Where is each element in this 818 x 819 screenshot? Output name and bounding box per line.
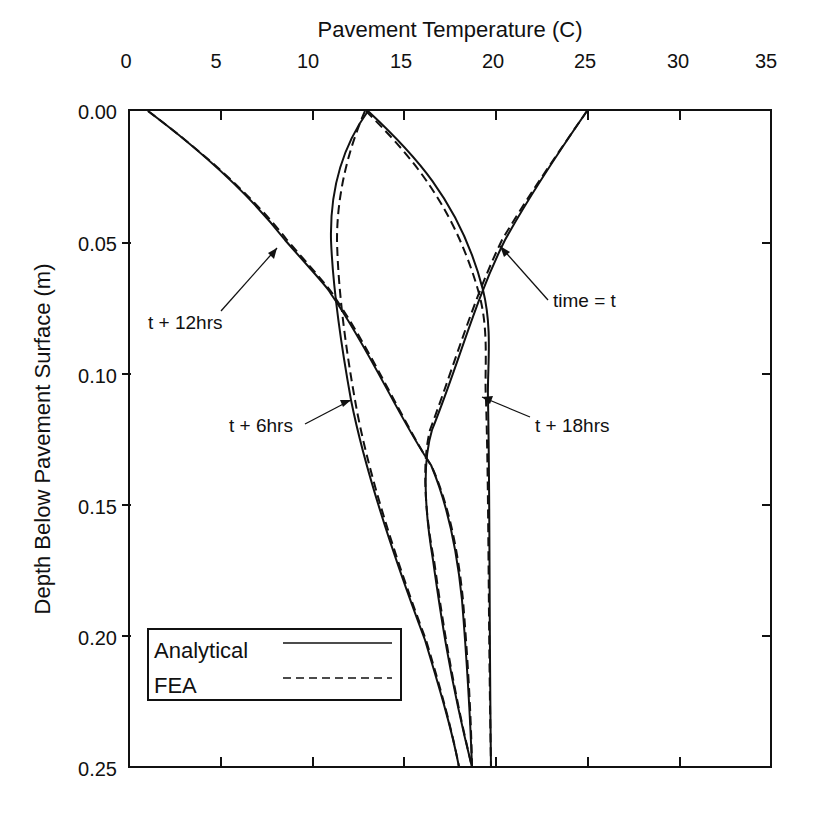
y-ticks xyxy=(122,243,771,636)
annotation-t12: t + 12hrs xyxy=(148,312,222,333)
y-tick-label: 0.15 xyxy=(78,496,117,518)
arrow-t12 xyxy=(221,248,277,311)
legend: Analytical FEA xyxy=(148,629,401,700)
arrowhead-icon xyxy=(340,400,351,407)
y-tick-label: 0.05 xyxy=(78,233,117,255)
x-tick-label: 20 xyxy=(482,50,504,72)
y-axis-title: Depth Below Pavement Surface (m) xyxy=(30,264,55,615)
x-tick-label: 25 xyxy=(574,50,596,72)
x-tick-labels: 0 5 10 15 20 25 30 35 xyxy=(120,50,777,72)
y-tick-label: 0.10 xyxy=(78,365,117,387)
annotation-time-t: time = t xyxy=(553,290,617,311)
x-tick-label: 35 xyxy=(755,50,777,72)
x-tick-label: 5 xyxy=(210,50,221,72)
chart-canvas: Pavement Temperature (C) Depth Below Pav… xyxy=(0,0,818,819)
legend-label-analytical: Analytical xyxy=(154,638,248,663)
annotation-t18: t + 18hrs xyxy=(535,415,609,436)
annotation-arrows xyxy=(221,246,548,424)
x-tick-label: 10 xyxy=(297,50,319,72)
x-tick-label: 30 xyxy=(667,50,689,72)
annotation-t6: t + 6hrs xyxy=(229,415,293,436)
x-tick-label: 0 xyxy=(120,50,131,72)
arrowheads xyxy=(268,246,510,407)
y-tick-labels: 0.00 0.05 0.10 0.15 0.20 0.25 xyxy=(78,101,117,780)
y-tick-label: 0.00 xyxy=(78,101,117,123)
y-tick-label: 0.25 xyxy=(78,758,117,780)
y-tick-label: 0.20 xyxy=(78,627,117,649)
x-tick-label: 15 xyxy=(390,50,412,72)
legend-label-fea: FEA xyxy=(154,673,197,698)
x-axis-title: Pavement Temperature (C) xyxy=(318,17,583,42)
